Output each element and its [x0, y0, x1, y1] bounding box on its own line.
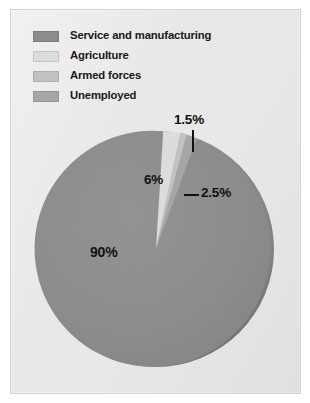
leader-line-armed-forces	[192, 130, 194, 152]
chart-figure: Service and manufacturing Agriculture Ar…	[0, 0, 310, 403]
value-label-agriculture: 6%	[144, 173, 163, 187]
legend-label-agriculture: Agriculture	[70, 50, 129, 61]
legend-label-armed-forces: Armed forces	[70, 70, 141, 81]
legend-swatch-service-and-manufacturing	[33, 31, 59, 42]
legend-label-unemployed: Unemployed	[70, 90, 136, 101]
legend-item-armed-forces[interactable]: Armed forces	[33, 66, 211, 86]
chart-legend: Service and manufacturing Agriculture Ar…	[33, 26, 211, 106]
legend-swatch-armed-forces	[33, 71, 59, 82]
legend-swatch-agriculture	[33, 51, 59, 62]
legend-item-unemployed[interactable]: Unemployed	[33, 86, 211, 106]
chart-panel: Service and manufacturing Agriculture Ar…	[10, 9, 301, 394]
legend-item-agriculture[interactable]: Agriculture	[33, 46, 211, 66]
legend-item-service-and-manufacturing[interactable]: Service and manufacturing	[33, 26, 211, 46]
value-label-armed-forces: 1.5%	[174, 113, 204, 127]
legend-swatch-unemployed	[33, 91, 59, 102]
leader-line-unemployed	[184, 194, 199, 196]
value-label-service-and-manufacturing: 90%	[90, 245, 117, 259]
value-label-unemployed: 2.5%	[201, 186, 231, 200]
legend-label-service-and-manufacturing: Service and manufacturing	[70, 30, 211, 41]
pie-slice-service-and-manufacturing[interactable]	[35, 131, 271, 367]
